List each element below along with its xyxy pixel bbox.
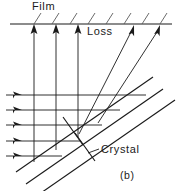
hatch-tick bbox=[124, 13, 131, 24]
crystal-plane-mark bbox=[75, 133, 95, 161]
film-label: Film bbox=[32, 1, 55, 12]
hatch-tick bbox=[70, 13, 77, 24]
hatch-tick bbox=[52, 13, 59, 24]
incident-arrow-head bbox=[13, 153, 22, 160]
crystal-leader-line bbox=[88, 149, 99, 153]
crystal-label: Crystal bbox=[101, 144, 139, 155]
film-hatching-group bbox=[34, 13, 167, 24]
incident-arrow-head bbox=[13, 92, 22, 99]
crystal-band-group bbox=[16, 77, 175, 191]
hatch-tick bbox=[160, 13, 167, 24]
incident-arrow-head bbox=[13, 107, 22, 114]
crystal-leader-group bbox=[88, 149, 99, 153]
hatch-tick bbox=[34, 13, 41, 24]
hatch-tick bbox=[88, 13, 95, 24]
incident-arrow-head bbox=[13, 138, 22, 145]
hatch-tick bbox=[142, 13, 149, 24]
panel-caption: (b) bbox=[120, 170, 135, 181]
incident-arrow-head bbox=[13, 122, 22, 129]
slanted-ray-line bbox=[79, 32, 131, 134]
slanted-ray-line bbox=[98, 32, 157, 123]
hatch-tick bbox=[106, 13, 113, 24]
slanted-diffracted-ray-group bbox=[79, 25, 160, 134]
crystal-band-line-upper bbox=[16, 77, 153, 172]
loss-label: Loss bbox=[87, 26, 113, 37]
figure-container: Film Loss Crystal (b) bbox=[0, 0, 177, 191]
